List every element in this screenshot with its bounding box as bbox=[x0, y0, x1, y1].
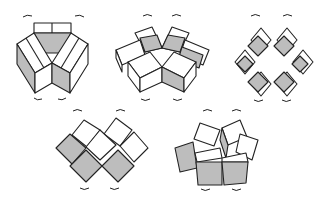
figure-5 bbox=[175, 110, 258, 191]
figure-4 bbox=[56, 110, 148, 190]
figure-1 bbox=[17, 15, 88, 100]
figure-3 bbox=[235, 15, 313, 102]
diagram-canvas bbox=[0, 0, 319, 203]
folding-cubes-diagram bbox=[0, 0, 319, 203]
figure-2 bbox=[116, 15, 209, 101]
